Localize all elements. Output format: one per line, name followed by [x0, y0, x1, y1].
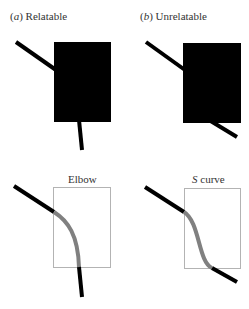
elbow-bottom-line [79, 267, 82, 297]
diagram-canvas [0, 0, 249, 309]
panel-b-occluder [183, 43, 241, 123]
panel-a-bottom-line [79, 120, 82, 150]
panel-b-top-line [146, 42, 185, 70]
panel-a-figure [16, 42, 111, 150]
s-curve-bottom-line [212, 268, 237, 282]
s-curve-interpolated-curve [184, 212, 212, 268]
s-curve-top-line [145, 187, 184, 212]
panel-a-top-line [16, 42, 56, 70]
elbow-figure [14, 186, 111, 297]
elbow-top-line [14, 186, 54, 212]
elbow-interpolated-curve [54, 212, 79, 267]
panel-b-figure [146, 42, 241, 137]
panel-a-occluder [54, 42, 111, 122]
elbow-box [54, 188, 111, 268]
s-curve-figure [145, 187, 241, 282]
